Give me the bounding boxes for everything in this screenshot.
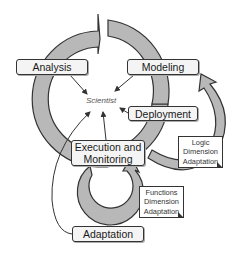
analysis-label: Analysis [32,61,71,73]
functions-note-line2: Dimension [140,197,183,206]
execution-to-scientist-arrow [103,112,106,140]
logic-note-line2: Dimension [179,147,222,156]
logic-dimension-note: Logic Dimension Adaptation [178,136,223,168]
deployment-label: Deployment [135,108,191,120]
analysis-box[interactable]: Analysis [16,59,88,75]
logic-note-line3: Adaptation [179,157,222,166]
deployment-to-scientist-arrow [120,108,128,113]
modeling-to-scientist-arrow [115,75,134,91]
analysis-to-scientist-arrow [70,75,87,94]
modeling-box[interactable]: Modeling [127,59,199,75]
deployment-box[interactable]: Deployment [128,106,198,121]
functions-note-line1: Functions [140,188,183,197]
execution-monitoring-box[interactable]: Execution and Monitoring [71,140,145,166]
scientist-label: Scientist [86,96,116,105]
functions-note-line3: Adaptation [140,207,183,216]
execution-label-line2: Monitoring [83,153,132,165]
page-fold-icon [217,162,223,168]
execution-label-line1: Execution and [75,141,142,153]
adaptation-box[interactable]: Adaptation [72,226,144,242]
functions-dimension-note: Functions Dimension Adaptation [139,186,184,218]
functions-adaptation-arrow [77,157,143,225]
adaptation-label: Adaptation [83,228,133,240]
page-fold-icon [178,212,184,218]
modeling-label: Modeling [142,61,185,73]
logic-note-line1: Logic [179,138,222,147]
cycle-diagram-graphics [0,0,244,256]
